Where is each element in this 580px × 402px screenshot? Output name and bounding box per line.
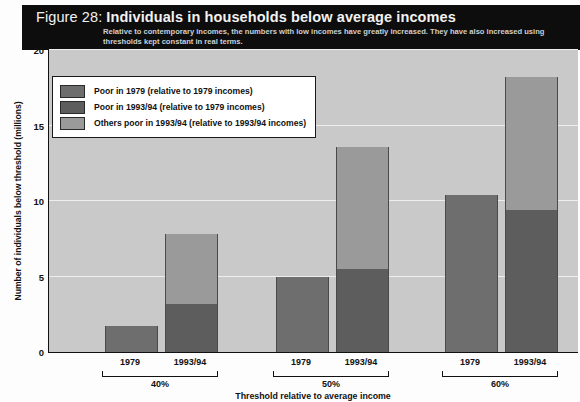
figure-subtitle: Relative to contemporary incomes, the nu…	[103, 27, 573, 46]
group-label: 40%	[151, 379, 169, 389]
group-bracket	[102, 371, 218, 377]
x-axis-tick-label: 1993/94	[514, 357, 547, 367]
chart-bar-segment	[506, 210, 557, 352]
group-bracket	[442, 371, 558, 377]
figure-28-chart: Figure 28: Individuals in households bel…	[0, 0, 580, 402]
x-axis: Threshold relative to average income 197…	[48, 353, 578, 402]
group-label: 60%	[491, 379, 509, 389]
legend-item: Poor in 1979 (relative to 1979 incomes)	[60, 83, 306, 99]
group-bracket	[273, 371, 389, 377]
chart-bar	[445, 195, 498, 352]
group-label: 50%	[322, 379, 340, 389]
chart-bar-segment	[166, 234, 217, 303]
y-axis-label: Number of individuals below threshold (m…	[13, 51, 23, 351]
legend-item-label: Others poor in 1993/94 (relative to 1993…	[94, 118, 306, 128]
chart-bar-segment	[506, 77, 557, 210]
chart-bar-segment	[337, 147, 388, 269]
chart-bar	[165, 234, 218, 352]
chart-bar-segment	[446, 195, 497, 352]
page-title: Individuals in households below average …	[106, 9, 456, 25]
x-axis-tick-label: 1993/94	[345, 357, 378, 367]
legend-swatch-icon	[60, 117, 85, 130]
figure-header-banner: Figure 28: Individuals in households bel…	[22, 5, 580, 50]
legend-item: Poor in 1993/94 (relative to 1979 income…	[60, 99, 306, 115]
chart-bar-segment	[166, 304, 217, 352]
chart-bar-segment	[277, 277, 328, 353]
x-axis-label: Threshold relative to average income	[48, 391, 578, 401]
gridline	[49, 200, 578, 201]
legend-item-label: Poor in 1979 (relative to 1979 incomes)	[94, 86, 253, 96]
legend-swatch-icon	[60, 85, 85, 98]
chart-bar	[505, 77, 558, 352]
x-axis-tick-label: 1979	[291, 357, 311, 367]
x-axis-tick-label: 1979	[120, 357, 140, 367]
legend-swatch-icon	[60, 101, 85, 114]
figure-title-line: Figure 28: Individuals in households bel…	[36, 9, 456, 25]
chart-legend: Poor in 1979 (relative to 1979 incomes)P…	[52, 76, 316, 138]
figure-number: Figure 28:	[36, 9, 102, 25]
chart-bar	[105, 326, 158, 352]
chart-bar	[336, 147, 389, 352]
x-axis-tick-label: 1993/94	[174, 357, 207, 367]
gridline	[49, 49, 578, 50]
legend-item: Others poor in 1993/94 (relative to 1993…	[60, 115, 306, 131]
legend-item-label: Poor in 1993/94 (relative to 1979 income…	[94, 102, 265, 112]
chart-bar-segment	[337, 269, 388, 352]
chart-bar-segment	[106, 326, 157, 352]
x-axis-tick-label: 1979	[460, 357, 480, 367]
chart-bar	[276, 277, 329, 353]
